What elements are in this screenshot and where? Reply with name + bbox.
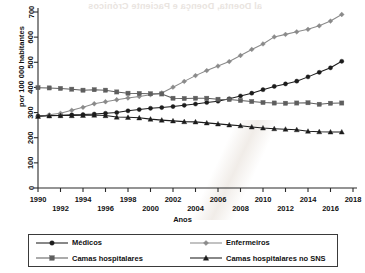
x-axis-tick-label: 2010 (255, 195, 272, 204)
x-axis-tick-label: 2018 (345, 195, 362, 204)
x-axis-tick-label: 1996 (97, 204, 114, 213)
legend-marker-diamond-icon (189, 238, 223, 248)
legend-item-2[interactable]: Enfermeiros (183, 238, 337, 248)
x-axis-title: Anos (0, 215, 365, 224)
y-axis-tick-label: 600 (27, 31, 36, 44)
legend-label: Médicos (72, 238, 102, 247)
x-axis-tick-label: 2008 (232, 204, 249, 213)
y-axis-title: por 100 000 habitantes (17, 2, 26, 132)
series-4 (36, 113, 345, 134)
y-axis-tick-label: 300 (27, 106, 36, 119)
plot-area: 0100200300400500600700199019921994199619… (0, 0, 365, 230)
x-axis-tick-label: 1998 (120, 195, 137, 204)
x-axis-tick-label: 2000 (142, 204, 159, 213)
y-axis-tick-label: 700 (27, 6, 36, 19)
x-axis-tick-label: 2006 (210, 195, 227, 204)
y-axis-tick-label: 0 (27, 186, 36, 190)
legend-marker-circle-icon (35, 238, 69, 248)
series-3 (36, 86, 344, 107)
y-axis-tick-label: 500 (27, 56, 36, 69)
x-axis-tick-label: 1994 (75, 195, 93, 204)
legend-marker-square-icon (35, 253, 69, 263)
x-axis-tick-label: 2002 (165, 195, 182, 204)
legend-item-1[interactable]: Médicos (29, 238, 183, 248)
x-axis-tick-label: 2016 (322, 204, 339, 213)
y-axis-tick-label: 400 (27, 81, 36, 94)
y-axis-tick-label: 200 (27, 131, 36, 144)
legend-label: Camas hospitalares no SNS (226, 254, 326, 263)
legend-marker-triangle-icon (189, 253, 223, 263)
chart-legend: MédicosEnfermeirosCamas hospitalaresCama… (28, 234, 338, 267)
chart-figure: al Doenta, Doença e Paciente Crónicos 01… (0, 0, 365, 273)
x-axis-tick-label: 1992 (52, 204, 69, 213)
x-axis-tick-label: 1990 (30, 195, 47, 204)
y-axis-tick-label: 100 (27, 157, 36, 170)
x-axis-tick-label: 2004 (187, 204, 205, 213)
x-axis-tick-label: 2012 (277, 204, 294, 213)
legend-label: Enfermeiros (226, 238, 270, 247)
x-axis-tick-label: 2014 (300, 195, 318, 204)
legend-item-4[interactable]: Camas hospitalares no SNS (183, 253, 337, 263)
chart-canvas: 0100200300400500600700199019921994199619… (0, 0, 365, 230)
legend-label: Camas hospitalares (72, 254, 143, 263)
legend-item-3[interactable]: Camas hospitalares (29, 253, 183, 263)
